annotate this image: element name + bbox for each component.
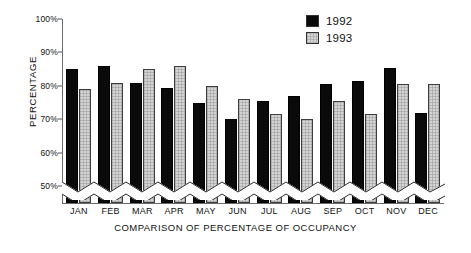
bar-group: [193, 19, 221, 203]
bar-1992-jun: [225, 119, 237, 203]
bar-group: [384, 19, 412, 203]
bar-group: [98, 19, 126, 203]
occupancy-bar-chart: 1992 1993 PERCENTAGE 50%60%70%80%90%100%…: [0, 0, 471, 253]
bar-1993-feb: [111, 83, 123, 203]
bar-1993-jan: [79, 89, 91, 203]
bar-1992-sep: [320, 84, 332, 203]
bar-1992-nov: [384, 68, 396, 203]
bar-group: [288, 19, 316, 203]
x-axis-title: COMPARISON OF PERCENTAGE OF OCCUPANCY: [0, 222, 471, 233]
y-tick-label: 70%: [30, 114, 58, 124]
bar-1992-jul: [257, 101, 269, 203]
bar-1992-oct: [352, 81, 364, 203]
bar-1993-nov: [397, 84, 409, 203]
bar-1992-dec: [415, 113, 427, 203]
x-axis-line: [62, 203, 444, 204]
bar-1993-dec: [428, 84, 440, 203]
bar-1992-apr: [161, 88, 173, 203]
bar-1992-may: [193, 103, 205, 203]
y-tick-label: 80%: [30, 81, 58, 91]
y-tick-label: 60%: [30, 148, 58, 158]
y-tick-label: 90%: [30, 47, 58, 57]
bar-1993-may: [206, 86, 218, 203]
bar-1992-feb: [98, 66, 110, 203]
y-axis-ticks: 50%60%70%80%90%100%: [30, 0, 58, 253]
bar-1993-jun: [238, 99, 250, 203]
bar-group: [130, 19, 158, 203]
bar-group: [352, 19, 380, 203]
x-tick-label-dec: DEC: [408, 206, 448, 216]
bar-1992-jan: [66, 69, 78, 203]
y-tick-label: 50%: [30, 181, 58, 191]
bar-1992-mar: [130, 83, 142, 203]
x-axis-ticks: JANFEBMARAPRMAYJUNJULAUGSEPOCTNOVDEC: [63, 206, 444, 220]
bar-group: [225, 19, 253, 203]
bar-1993-apr: [174, 66, 186, 203]
bar-group: [257, 19, 285, 203]
bar-group: [66, 19, 94, 203]
bar-1993-mar: [143, 69, 155, 203]
bar-1993-oct: [365, 114, 377, 203]
y-tick-label: 100%: [30, 14, 58, 24]
bar-group: [161, 19, 189, 203]
bar-1993-aug: [301, 119, 313, 203]
bar-group: [415, 19, 443, 203]
chart-plot-area: [63, 19, 444, 203]
bar-1993-jul: [270, 114, 282, 203]
bar-1992-aug: [288, 96, 300, 203]
bar-1993-sep: [333, 101, 345, 203]
bar-group: [320, 19, 348, 203]
